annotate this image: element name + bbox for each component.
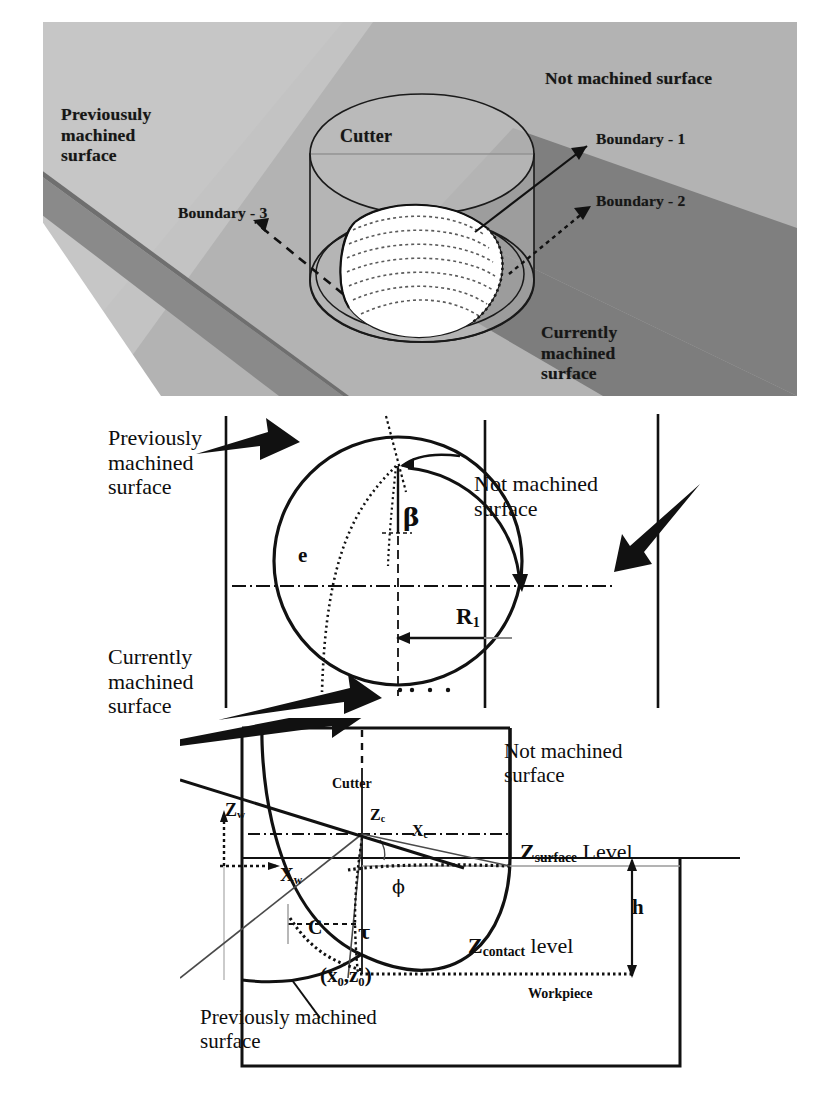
xw-base: X <box>280 864 294 885</box>
radius-R1-subscript: 1 <box>473 615 480 630</box>
label-cutter-iso: Cutter <box>340 126 392 147</box>
zw-base: Z <box>225 800 237 820</box>
zc-base: Z <box>370 806 381 823</box>
z-contact-base: Z <box>468 933 483 958</box>
label-currently-machined-surface-plan: Currently machined surface <box>108 645 194 719</box>
z-surface-base: Z <box>520 839 535 864</box>
label-z-contact-level: Zcontact level <box>468 934 573 959</box>
label-axis-xw: Xw <box>280 864 302 887</box>
figure-root: Not machined surface Previousuly machine… <box>0 0 840 1101</box>
label-axis-xc: Xc <box>412 822 428 840</box>
zw-subscript: w <box>237 808 245 820</box>
label-not-machined-surface-plan: Not machined surface <box>474 472 598 521</box>
label-not-machined-surface-section: Not machined surface <box>504 740 622 787</box>
label-axis-zc: Zc <box>370 806 385 824</box>
label-axis-zw: Zw <box>225 800 245 821</box>
label-workpiece: Workpiece <box>528 986 593 1002</box>
z-contact-subscript: contact <box>483 944 525 959</box>
radius-R1-base: R <box>456 604 473 629</box>
label-currently-machined-surface-iso: Currently machined surface <box>541 322 617 384</box>
beta-start-arrowhead <box>400 458 414 470</box>
xc-base: X <box>412 822 424 839</box>
label-beta-angle: β <box>403 504 420 532</box>
label-z-surface-level: Zsurface Level <box>520 840 633 865</box>
xw-arrowhead <box>268 862 280 870</box>
label-not-machined-surface-iso: Not machined surface <box>545 68 712 89</box>
label-cutter-section: Cutter <box>332 776 372 792</box>
label-boundary-3: Boundary - 3 <box>178 204 267 222</box>
xc-subscript: c <box>424 829 428 840</box>
plan-view-panel: Previously machined surface Not machined… <box>100 396 740 726</box>
tooth-radius-dotted <box>388 466 396 566</box>
label-offset-C: C <box>308 916 322 938</box>
feed-arrow-side <box>180 718 376 760</box>
tooth-path-dotted <box>322 466 396 692</box>
label-boundary-1: Boundary - 1 <box>596 130 685 148</box>
previously-machined-arrow <box>196 418 300 460</box>
label-previously-machined-surface-iso: Previousuly machined surface <box>61 104 151 166</box>
label-boundary-2: Boundary - 2 <box>596 192 685 210</box>
currently-machined-arrow <box>218 674 382 720</box>
label-previously-machined-surface-section: Previously machined surface <box>200 1006 377 1053</box>
label-radius-R1: R1 <box>456 604 480 631</box>
engagement-region <box>340 205 502 338</box>
feed-dots <box>398 688 450 692</box>
z-surface-subscript: surface <box>535 850 577 865</box>
zc-subscript: c <box>381 813 385 824</box>
label-phi-angle: ϕ <box>392 876 405 897</box>
cutter-top-ellipse <box>310 94 534 214</box>
label-eccentricity-e: e <box>298 544 307 568</box>
isometric-view-panel: Not machined surface Previousuly machine… <box>43 22 797 396</box>
z-contact-suffix: level <box>525 933 573 958</box>
xw-subscript: w <box>294 874 303 887</box>
label-origin-coordinates: (x₀,z₀) <box>320 964 372 988</box>
tooth-angle-line <box>386 416 406 492</box>
label-depth-h: h <box>632 896 644 920</box>
section-view-panel: Not machined surface Zsurface Level Zcon… <box>180 718 740 1090</box>
label-previously-machined-surface-plan: Previously machined surface <box>108 426 202 500</box>
tau-ray <box>180 834 362 978</box>
h-arrowhead-bottom <box>627 965 637 978</box>
z-surface-suffix: Level <box>577 839 633 864</box>
label-tau-angle: τ <box>358 922 371 943</box>
